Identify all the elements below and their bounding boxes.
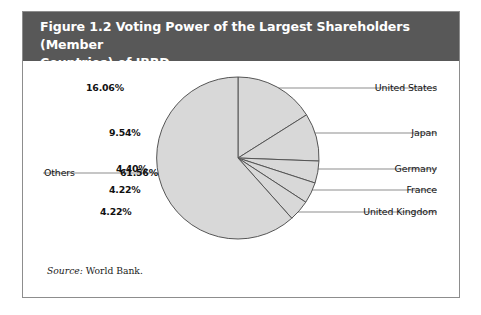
source-value: World Bank. <box>86 265 143 276</box>
chart-plot-area: 16.06% United States 9.54% Japan 4.40% G… <box>23 61 459 297</box>
callout-name-france: France <box>406 183 437 197</box>
figure-title-bar: Figure 1.2 Voting Power of the Largest S… <box>23 12 459 61</box>
callout-pct-united-states: 16.06% <box>86 81 124 95</box>
callout-pct-united-kingdom: 4.22% <box>100 205 132 219</box>
callout-pct-japan: 9.54% <box>109 126 141 140</box>
figure-title: Figure 1.2 Voting Power of the Largest S… <box>40 18 440 61</box>
callout-name-united-states: United States <box>375 81 437 95</box>
callout-france: 4.22% France <box>23 183 459 197</box>
figure-container: Figure 1.2 Voting Power of the Largest S… <box>0 0 481 315</box>
callout-pct-france: 4.22% <box>109 183 141 197</box>
callout-japan: 9.54% Japan <box>23 126 459 140</box>
callout-name-united-kingdom: United Kingdom <box>363 205 437 219</box>
callout-united-kingdom: 4.22% United Kingdom <box>23 205 459 219</box>
callout-name-japan: Japan <box>411 126 437 140</box>
source-note: Source: World Bank. <box>47 265 143 276</box>
source-label: Source: <box>47 265 83 276</box>
callout-name-others: Others <box>44 166 75 180</box>
callout-united-states: 16.06% United States <box>23 81 459 95</box>
callout-others: Others 61.56% <box>23 166 459 180</box>
callout-pct-others: 61.56% <box>120 166 158 180</box>
